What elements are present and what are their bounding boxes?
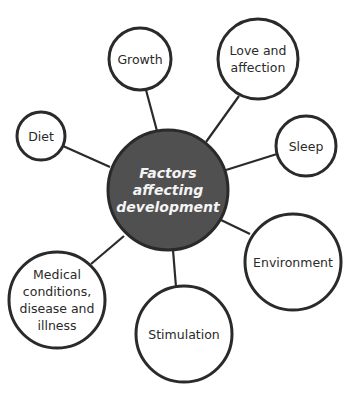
connector-sleep <box>226 154 277 170</box>
center-node-label: Factors affecting development <box>108 130 228 250</box>
node-stimulation-circle <box>136 286 232 382</box>
node-environment-circle <box>245 214 341 310</box>
center-label-line: development <box>116 199 219 216</box>
node-medical-circle <box>9 252 105 348</box>
node-growth-circle <box>109 28 171 90</box>
connector-stimulation <box>173 250 176 287</box>
center-label-line: affecting <box>116 182 219 199</box>
center-label-line: Factors <box>116 165 219 182</box>
mind-map-diagram: Factors affecting development Growth Lov… <box>0 0 356 403</box>
node-love-circle <box>218 19 298 99</box>
connector-growth <box>146 90 157 131</box>
connector-diet <box>63 146 110 167</box>
node-diet-circle <box>17 112 65 160</box>
node-sleep-circle <box>276 116 336 176</box>
